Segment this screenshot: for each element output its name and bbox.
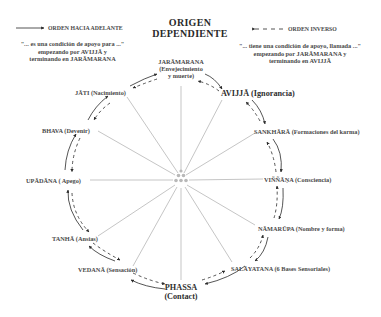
reverse-note-line-2: empezando por JARĀMARANA y [220,50,380,58]
node-namarupa: NĀMARŪPA (Nombre y forma) [258,225,345,232]
node-name: AVIJJĀ [221,89,249,98]
title-line-2: DEPENDIENTE [140,28,240,39]
node-desc: (Sensación) [107,266,138,273]
forward-arrows [65,74,283,289]
node-desc: (Ignorancia) [251,89,295,98]
node-name: VEDANĀ [78,266,105,273]
node-jati: JĀTI (Nacimiento) [75,89,126,96]
node-vinnana: VIÑÑĀṆA (Consciencia) [264,176,331,183]
node-desc: (Contact) [156,292,206,301]
legend-forward-note: "... es una condición de apoyo para ..."… [5,40,140,63]
node-desc: (Ansias) [76,235,98,242]
node-desc: (Nacimiento) [91,89,126,96]
node-desc: (Envejecimiento [150,65,212,72]
node-name: VIÑÑĀṆA [264,176,293,183]
node-name: NĀMARŪPA [258,225,294,232]
node-name: PHASSA [156,283,206,292]
node-name: JARĀMARANA [150,58,212,65]
forward-note-line-1: "... es una condición de apoyo para ..." [5,40,140,48]
node-name: SALĀYATANA [231,265,273,272]
node-desc: (6 Bases Sensoriales) [274,265,330,272]
node-phassa: PHASSA (Contact) [156,283,206,301]
node-name: JĀTI [75,89,89,96]
reverse-note-line-1: "... tiene una condición de apoyo, llama… [220,42,380,50]
center-dots-icon [174,169,188,182]
forward-note-line-3: terminando en JARĀMARANA [5,55,140,63]
legend-reverse-note: "... tiene una condición de apoyo, llama… [220,42,380,65]
node-desc: (Consciencia) [295,176,331,183]
node-bhava: BHAVA (Devenir) [42,127,90,134]
node-name: BHAVA [42,127,63,134]
node-name: TANHĀ [52,235,74,242]
node-desc-2: y muerte) [150,72,212,79]
node-desc: (Formaciones del karma) [292,128,360,135]
node-avijja: AVIJJĀ (Ignorancia) [221,90,295,97]
node-sankhara: SANKHĀRĀ (Formaciones del karma) [254,128,359,135]
diagram-title: ORIGEN DEPENDIENTE [140,17,240,39]
node-salayatana: SALĀYATANA (6 Bases Sensoriales) [231,265,330,272]
node-upadana: UPĀDĀNA ( Apego) [26,177,81,184]
node-jaramarana: JARĀMARANA (Envejecimiento y muerte) [150,58,212,79]
node-tanha: TANHĀ (Ansias) [52,235,98,242]
node-desc: ( Apego) [58,177,81,184]
title-line-1: ORIGEN [140,17,240,28]
node-desc: (Nombre y forma) [296,225,345,232]
forward-note-line-2: empezando por AVIJJĀ y [5,48,140,56]
node-name: UPĀDĀNA [26,177,57,184]
node-vedana: VEDANĀ (Sensación) [78,266,137,273]
legend-forward-label: ORDEN HACIA ADELANTE [48,25,123,31]
node-desc: (Devenir) [64,127,90,134]
spokes [90,86,263,280]
node-name: SANKHĀRĀ [254,128,290,135]
reverse-note-line-3: terminando en AVIJJĀ [220,57,380,65]
legend-reverse-label: ORDEN INVERSO [288,26,337,32]
